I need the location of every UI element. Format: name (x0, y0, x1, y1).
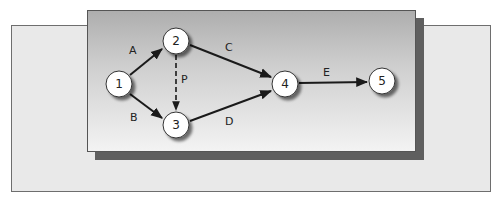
edge-label-b: B (130, 111, 138, 124)
edge-label-e: E (323, 66, 330, 79)
edge-label-p: P (181, 73, 188, 86)
node-3-label: 3 (172, 118, 180, 132)
node-2-label: 2 (172, 34, 180, 48)
edge-label-d: D (225, 115, 233, 128)
node-5-label: 5 (378, 74, 386, 88)
node-4-label: 4 (281, 77, 289, 91)
node-2: 2 (163, 28, 189, 54)
network-diagram: A B C D P E 1 2 3 4 5 (0, 0, 502, 200)
edge-e-arrow (299, 82, 367, 83)
node-1: 1 (106, 71, 132, 97)
node-1-label: 1 (115, 77, 123, 91)
edge-label-a: A (129, 44, 137, 57)
edge-label-c: C (225, 41, 233, 54)
edges (130, 45, 367, 121)
node-5: 5 (369, 68, 395, 94)
node-4: 4 (272, 71, 298, 97)
node-3: 3 (163, 112, 189, 138)
